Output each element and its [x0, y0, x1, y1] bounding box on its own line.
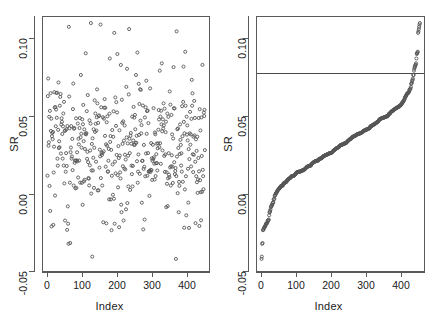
data-point	[81, 203, 84, 206]
data-point	[123, 153, 126, 156]
data-point	[126, 202, 129, 205]
data-point	[159, 142, 162, 145]
data-point	[154, 175, 157, 178]
data-point	[46, 174, 49, 177]
data-point	[161, 118, 164, 121]
data-point	[81, 123, 84, 126]
data-point	[190, 78, 193, 81]
data-point	[181, 180, 184, 183]
data-point	[192, 171, 195, 174]
data-point	[82, 103, 85, 106]
x-tick-label-left-4: 400	[178, 280, 196, 291]
data-point	[57, 128, 60, 131]
data-point	[75, 117, 78, 120]
data-point	[194, 160, 197, 163]
x-tick-label-left-2: 200	[108, 280, 126, 291]
y-tick-label-right-3: 0.10	[237, 38, 248, 58]
data-point	[117, 145, 120, 148]
data-point	[268, 214, 271, 217]
data-point	[180, 164, 183, 167]
data-point	[91, 137, 94, 140]
data-point	[116, 174, 119, 177]
x-tick-right-4	[401, 272, 402, 277]
data-point	[136, 51, 139, 54]
data-point	[203, 115, 206, 118]
data-point	[71, 169, 74, 172]
data-point	[159, 162, 162, 165]
data-point	[109, 140, 112, 143]
data-point	[76, 122, 79, 125]
data-point	[147, 122, 150, 125]
data-point	[110, 229, 113, 232]
data-point	[62, 112, 65, 115]
data-point	[132, 105, 135, 108]
data-point	[147, 152, 150, 155]
data-point	[140, 124, 143, 127]
data-point	[102, 221, 105, 224]
data-point	[161, 149, 164, 152]
data-point	[158, 69, 161, 72]
data-point	[196, 191, 199, 194]
data-point	[103, 134, 106, 137]
data-point	[120, 203, 123, 206]
y-tick-label-left-1: 0.00	[18, 194, 29, 214]
data-point	[152, 107, 155, 110]
data-point	[200, 154, 203, 157]
data-point	[112, 197, 115, 200]
data-point	[95, 160, 98, 163]
data-point	[128, 28, 131, 31]
data-point	[186, 124, 189, 127]
y-tick-label-left-0: -0.05	[18, 271, 29, 295]
data-point	[80, 132, 83, 135]
y-tick-left-2	[29, 116, 34, 117]
data-point	[195, 149, 198, 152]
data-point	[105, 222, 108, 225]
data-point	[172, 66, 175, 69]
data-point	[68, 95, 71, 98]
data-point	[120, 211, 123, 214]
data-point	[137, 82, 140, 85]
data-point	[85, 110, 88, 113]
data-point	[162, 102, 165, 105]
data-point	[67, 222, 70, 225]
data-point	[114, 124, 117, 127]
data-point	[56, 164, 59, 167]
data-point	[166, 112, 169, 115]
data-point	[121, 142, 124, 145]
data-point	[197, 156, 200, 159]
data-point	[171, 181, 174, 184]
data-point	[66, 205, 69, 208]
x-tick-right-3	[366, 272, 367, 277]
data-point	[175, 155, 178, 158]
data-point	[185, 115, 188, 118]
data-point	[170, 113, 173, 116]
data-point	[177, 146, 180, 149]
data-point	[198, 224, 201, 227]
data-point	[119, 63, 122, 66]
data-point	[184, 104, 187, 107]
x-tick-left-2	[117, 272, 118, 277]
data-point	[122, 219, 125, 222]
data-point	[190, 117, 193, 120]
data-point	[126, 67, 129, 70]
data-point	[94, 112, 97, 115]
data-point	[69, 151, 72, 154]
data-point	[91, 255, 94, 258]
data-point	[48, 109, 51, 112]
data-point	[145, 79, 148, 82]
data-point	[181, 105, 184, 108]
data-point	[164, 131, 167, 134]
panel-sorted-scatter: SR -0.05 0.00 0.05 0.10 0 100 200 300 40…	[219, 0, 438, 325]
data-point	[415, 57, 418, 60]
data-point	[184, 175, 187, 178]
data-point	[68, 181, 71, 184]
scatter-points-sorted	[257, 17, 424, 271]
data-point	[70, 125, 73, 128]
data-point	[188, 158, 191, 161]
data-point	[79, 73, 82, 76]
data-point	[123, 124, 126, 127]
data-point	[115, 101, 118, 104]
data-point	[194, 222, 197, 225]
data-point	[110, 174, 113, 177]
data-point	[111, 163, 114, 166]
